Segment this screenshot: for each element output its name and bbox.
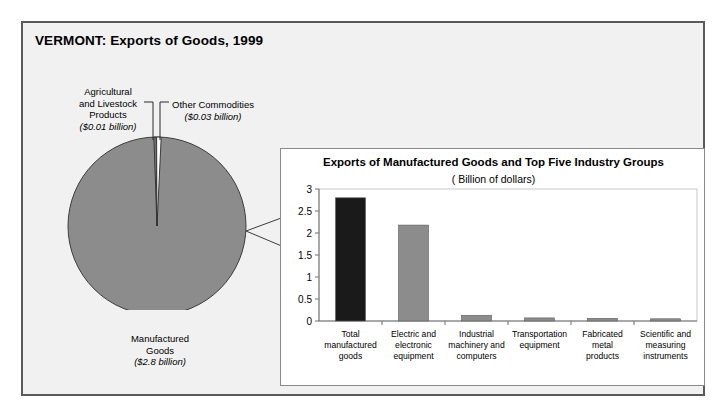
bar-3	[462, 315, 492, 321]
y-axis-tick-label: 2	[306, 228, 312, 239]
y-axis-tick-label: 3	[306, 184, 312, 195]
x-axis-category-label: Total	[341, 329, 359, 339]
pie-label-agricultural-and-livestock-products: Agricultural and Livestock Products ($0.…	[62, 86, 154, 132]
x-axis-category-label: measuring	[645, 340, 685, 350]
pie-label-line-2: and Livestock	[79, 98, 137, 109]
x-axis-category-label: Scientific and	[640, 329, 691, 339]
x-axis-category-label: equipment	[519, 340, 560, 350]
pie-label-line-2: Goods	[146, 345, 174, 356]
x-axis-category-label: instruments	[643, 351, 687, 361]
y-axis-tick-label: 1.5	[298, 250, 312, 261]
pie-label-other-commodities: Other Commodities ($0.03 billion)	[158, 99, 268, 122]
x-axis-category-label: computers	[456, 351, 496, 361]
pie-label-amount: ($2.8 billion)	[134, 356, 186, 367]
x-axis-category-label: Electric and	[391, 329, 436, 339]
figure-canvas: VERMONT: Exports of Goods, 1999 Agricult…	[0, 0, 725, 417]
x-axis-category-label: metal	[592, 340, 613, 350]
bar-2	[399, 225, 429, 321]
pie-label-line-1: Manufactured	[131, 333, 189, 344]
pie-label-line-3: Products	[89, 109, 127, 120]
bar-chart-panel: Exports of Manufactured Goods and Top Fi…	[280, 148, 705, 386]
bar-1	[336, 198, 366, 321]
bar-6	[651, 319, 681, 321]
x-axis-category-label: Industrial	[459, 329, 494, 339]
x-axis-category-label: equipment	[393, 351, 434, 361]
x-axis-category-label: manufactured	[324, 340, 377, 350]
bar-4	[525, 318, 555, 321]
y-axis-tick-label: 2.5	[298, 206, 312, 217]
pie-label-manufactured-goods: Manufactured Goods ($2.8 billion)	[96, 333, 224, 368]
x-axis-category-label: products	[586, 351, 619, 361]
y-axis-tick-label: 1	[306, 272, 312, 283]
plot-frame	[319, 189, 697, 321]
page-title: VERMONT: Exports of Goods, 1999	[35, 33, 263, 48]
plot-area: 00.511.522.53TotalmanufacturedgoodsElect…	[298, 184, 697, 361]
x-axis-category-label: Transportation	[512, 329, 567, 339]
pie-label-line-1: Agricultural	[84, 86, 132, 97]
pie-label-amount: ($0.03 billion)	[184, 111, 241, 122]
x-axis-category-label: electronic	[395, 340, 432, 350]
bar-5	[588, 318, 618, 321]
pie-label-line-1: Other Commodities	[172, 99, 254, 110]
bar-chart-plot: 00.511.522.53TotalmanufacturedgoodsElect…	[281, 149, 706, 387]
x-axis-category-label: machinery and	[448, 340, 505, 350]
y-axis-tick-label: 0	[306, 316, 312, 327]
x-axis-category-label: Fabricated	[582, 329, 623, 339]
pie-label-amount: ($0.01 billion)	[79, 121, 136, 132]
x-axis-category-label: goods	[339, 351, 362, 361]
y-axis-tick-label: 0.5	[298, 294, 312, 305]
